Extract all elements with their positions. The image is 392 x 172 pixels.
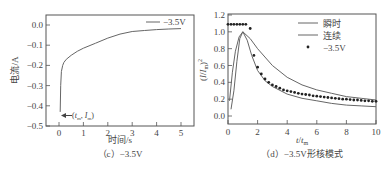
data-point	[323, 96, 326, 99]
legend-d: 瞬时 连续 −3.5V	[298, 18, 346, 53]
data-point	[282, 89, 285, 92]
series-line	[230, 32, 377, 101]
y-axis-d: 0.00.20.40.60.81.01.2	[214, 10, 232, 121]
annotation-text: (tm, Im)	[72, 111, 94, 121]
data-point	[319, 95, 322, 98]
legend-marker-data	[307, 46, 310, 49]
series-d	[227, 23, 378, 109]
data-point	[308, 94, 311, 97]
x-tick-label: 6	[315, 127, 320, 137]
y-tick-label: 1.0	[214, 27, 226, 37]
y-tick-label: −0.1	[27, 40, 43, 50]
data-point	[375, 100, 378, 103]
y-tick-label: −0.4	[27, 101, 44, 111]
y-tick-label: 0.0	[214, 111, 226, 121]
chart-nucleation-mode: 0.00.20.40.60.81.01.2 0246810 瞬时 连续 −3.5…	[197, 10, 381, 159]
data-point	[304, 93, 307, 96]
legend-c: −3.5V	[146, 17, 186, 27]
figure: 0.0−0.1−0.2−0.3−0.4−0.5 012345 −3.5V (tm…	[0, 0, 392, 172]
data-point	[364, 99, 367, 102]
data-point	[297, 92, 300, 95]
x-tick-label: 1	[81, 128, 86, 138]
data-point	[256, 66, 259, 69]
plot-frame-c	[46, 15, 194, 126]
data-point	[290, 90, 293, 93]
data-point	[264, 78, 267, 81]
data-point	[371, 100, 374, 103]
x-tick-label: 4	[154, 128, 159, 138]
x-tick-label: 0	[226, 127, 231, 137]
data-point	[271, 84, 274, 87]
data-point	[301, 93, 304, 96]
arrowhead-icon	[61, 113, 66, 118]
series-line	[60, 29, 181, 112]
y-tick-label: 0.6	[214, 61, 226, 71]
data-point	[230, 23, 233, 26]
data-point	[345, 98, 348, 101]
data-point	[356, 99, 359, 102]
data-point	[249, 27, 252, 30]
data-point	[312, 94, 315, 97]
data-point	[236, 23, 239, 26]
x-axis-label-c: 时间/s	[108, 134, 133, 145]
data-point	[227, 23, 230, 26]
data-point	[360, 99, 363, 102]
x-tick-label: 8	[344, 127, 349, 137]
legend-label-c: −3.5V	[163, 17, 186, 27]
x-tick-label: 10	[372, 127, 382, 137]
annotation-c: (tm, Im)	[61, 111, 94, 121]
chart-current-vs-time: 0.0−0.1−0.2−0.3−0.4−0.5 012345 −3.5V (tm…	[9, 15, 194, 159]
caption-d: （d）−3.5V形核模式	[261, 148, 342, 159]
data-point	[293, 91, 296, 94]
series-c	[60, 29, 181, 112]
x-tick-label: 0	[57, 128, 62, 138]
legend-label-instant: 瞬时	[323, 18, 341, 29]
data-point	[267, 81, 270, 84]
x-tick-label: 4	[285, 127, 290, 137]
data-point	[341, 98, 344, 101]
data-point	[238, 23, 241, 26]
y-tick-label: 0.8	[214, 44, 226, 54]
y-axis-c: 0.0−0.1−0.2−0.3−0.4−0.5	[27, 20, 50, 131]
y-tick-label: 0.2	[214, 94, 225, 104]
y-axis-label-c: 电流/A	[9, 56, 20, 84]
data-point	[275, 85, 278, 88]
data-point	[253, 54, 256, 57]
data-point	[330, 97, 333, 100]
plot-frame-d	[228, 14, 376, 124]
y-tick-label: 1.2	[214, 10, 225, 20]
data-point	[233, 23, 236, 26]
y-axis-label-d: (I/Im)2	[197, 59, 209, 81]
x-tick-label: 5	[179, 128, 184, 138]
data-point	[260, 73, 263, 76]
y-tick-label: 0.4	[214, 77, 226, 87]
data-point	[286, 89, 289, 92]
data-point	[338, 97, 341, 100]
legend-label-continuous: 连续	[323, 30, 341, 41]
x-tick-label: 2	[255, 127, 260, 137]
caption-c: （c）−3.5V	[98, 149, 143, 159]
data-point	[244, 23, 247, 26]
data-point	[241, 23, 244, 26]
data-point	[327, 96, 330, 99]
legend-label-data: −3.5V	[323, 43, 346, 53]
data-point	[367, 99, 370, 102]
y-tick-label: 0.0	[32, 20, 44, 30]
data-point	[352, 99, 355, 102]
y-tick-label: −0.2	[27, 60, 43, 70]
data-point	[278, 87, 281, 90]
data-point	[334, 97, 337, 100]
y-tick-label: −0.3	[27, 81, 44, 91]
data-point	[349, 98, 352, 101]
x-axis-label-d: t/tm	[296, 135, 309, 146]
data-point	[315, 95, 318, 98]
y-tick-label: −0.5	[27, 121, 44, 131]
